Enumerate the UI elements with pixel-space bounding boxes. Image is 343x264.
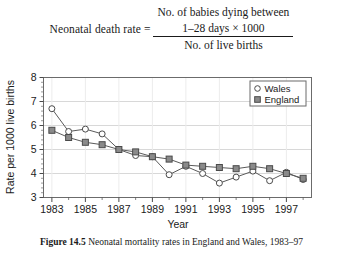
x-axis-title: Year: [167, 218, 189, 230]
y-tick-label: 3: [31, 191, 37, 203]
data-point-wales: [49, 106, 55, 112]
neonatal-death-rate-formula: Neonatal death rate = No. of babies dyin…: [0, 0, 343, 58]
data-point-england: [133, 149, 139, 155]
series-lines: [52, 109, 303, 183]
data-point-wales: [66, 129, 72, 135]
figure-caption-text: Neonatal mortality rates in England and …: [88, 237, 303, 247]
data-point-england: [250, 163, 256, 169]
y-tick-label: 7: [31, 95, 37, 107]
y-tick-label: 6: [31, 119, 37, 131]
data-point-wales: [99, 131, 105, 137]
data-point-england: [216, 165, 222, 171]
data-point-england: [267, 166, 273, 172]
formula-numerator-line-1: No. of babies dying between: [153, 5, 293, 21]
legend-label-wales: Wales: [265, 83, 291, 94]
data-point-england: [200, 163, 206, 169]
data-point-england: [99, 142, 105, 148]
x-tick-label: 1995: [241, 203, 265, 215]
data-point-england: [183, 162, 189, 168]
y-axis-ticks: [40, 78, 44, 198]
x-tick-label: 1989: [141, 203, 165, 215]
neonatal-mortality-chart: 345678 19831985198719891991199319951997 …: [0, 58, 343, 233]
formula-fraction: No. of babies dying between 1–28 days × …: [153, 5, 293, 53]
data-point-england: [149, 154, 155, 160]
series-markers: [49, 106, 306, 186]
y-tick-label: 8: [31, 71, 37, 83]
data-point-england: [283, 171, 289, 177]
figure-caption-label: Figure 14.5: [40, 237, 86, 247]
y-axis-title: Rate per 1000 live births: [4, 80, 16, 194]
data-point-wales: [82, 126, 88, 132]
formula-numerator-line-2: 1–28 days × 1000: [178, 21, 268, 37]
data-point-wales: [233, 174, 239, 180]
x-tick-label: 1987: [107, 203, 131, 215]
chart-legend: WalesEngland: [250, 81, 306, 106]
x-tick-label: 1993: [208, 203, 232, 215]
data-point-wales: [166, 172, 172, 178]
data-point-england: [49, 127, 55, 133]
data-point-wales: [216, 180, 222, 186]
data-point-england: [116, 147, 122, 153]
chart-svg: 345678 19831985198719891991199319951997 …: [0, 58, 343, 233]
data-point-england: [233, 166, 239, 172]
figure-caption: Figure 14.5 Neonatal mortality rates in …: [0, 236, 343, 248]
data-point-wales: [267, 178, 273, 184]
legend-label-england: England: [265, 94, 300, 105]
data-point-wales: [200, 171, 206, 177]
y-tick-label: 4: [31, 167, 37, 179]
legend-marker-england: [255, 97, 261, 103]
y-tick-label: 5: [31, 143, 37, 155]
data-point-england: [82, 139, 88, 145]
x-tick-label: 1991: [174, 203, 198, 215]
x-tick-label: 1983: [40, 203, 64, 215]
data-point-england: [300, 175, 306, 181]
x-axis-tick-labels: 19831985198719891991199319951997: [40, 203, 298, 215]
x-tick-label: 1985: [74, 203, 98, 215]
data-point-england: [166, 156, 172, 162]
x-tick-label: 1997: [275, 203, 299, 215]
x-axis-ticks: [52, 198, 303, 203]
data-point-england: [66, 135, 72, 141]
series-line-wales: [52, 109, 303, 183]
formula-denominator: No. of live births: [180, 37, 267, 53]
series-line-england: [52, 130, 303, 178]
formula-left-hand-side: Neonatal death rate =: [50, 23, 151, 35]
legend-marker-wales: [255, 86, 261, 92]
y-axis-tick-labels: 345678: [31, 71, 37, 203]
